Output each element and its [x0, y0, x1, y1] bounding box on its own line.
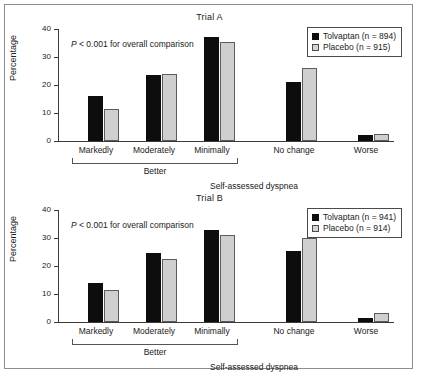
y-axis-line: [58, 210, 59, 322]
figure-frame: Trial A Tolvaptan (n = 894) Placebo (n =…: [4, 4, 413, 369]
x-tick-label-minimally: Minimally: [194, 145, 229, 155]
y-tick-label-10: 10: [29, 109, 51, 117]
bar-placebo-moderately: [162, 74, 177, 141]
bar-tolvaptan-worse: [358, 318, 373, 323]
better-bracket: [72, 158, 238, 164]
bar-tolvaptan-no-change: [286, 251, 301, 322]
bar-placebo-worse: [374, 313, 389, 322]
plot-area-trial-a: 0 10 20 30 40 Markedly Moderately Minima…: [58, 29, 394, 141]
x-axis-title-wrap: Self-assessed dyspnea: [58, 362, 394, 372]
bar-tolvaptan-moderately: [146, 75, 161, 141]
x-tick-label-markedly: Markedly: [79, 145, 113, 155]
chart-panel-trial-b: Trial B Tolvaptan (n = 941) Placebo (n =…: [5, 186, 414, 368]
y-tick-20: [54, 266, 58, 267]
panel-title: Trial B: [5, 193, 421, 203]
y-tick-10: [54, 113, 58, 114]
bar-tolvaptan-moderately: [146, 253, 161, 322]
plot-area-trial-b: 0 10 20 30 40 Markedly Moderately Minima…: [58, 210, 394, 322]
y-tick-30: [54, 238, 58, 239]
x-tick-label-moderately: Moderately: [133, 326, 175, 336]
bar-tolvaptan-minimally: [204, 37, 219, 141]
bar-placebo-minimally: [220, 42, 235, 141]
x-tick-label-worse: Worse: [354, 326, 378, 336]
better-bracket: [72, 339, 238, 345]
y-tick-label-40: 40: [29, 206, 51, 214]
x-tick-label-no-change: No change: [273, 326, 314, 336]
bar-tolvaptan-markedly: [88, 96, 103, 141]
x-tick-label-minimally: Minimally: [194, 326, 229, 336]
bar-placebo-worse: [374, 134, 389, 141]
panel-title: Trial A: [5, 12, 421, 22]
x-axis-line: [58, 322, 394, 323]
x-tick-label-moderately: Moderately: [133, 145, 175, 155]
x-tick-label-worse: Worse: [354, 145, 378, 155]
x-axis-title: Self-assessed dyspnea: [154, 362, 298, 372]
y-tick-label-0: 0: [29, 318, 51, 326]
y-tick-20: [54, 85, 58, 86]
bar-tolvaptan-worse: [358, 135, 373, 141]
bar-placebo-no-change: [302, 68, 317, 141]
y-tick-label-20: 20: [29, 81, 51, 89]
chart-panel-trial-a: Trial A Tolvaptan (n = 894) Placebo (n =…: [5, 5, 414, 187]
y-axis-title: Percentage: [8, 35, 18, 81]
bar-tolvaptan-no-change: [286, 82, 301, 141]
y-tick-40: [54, 210, 58, 211]
better-bracket-label: Better: [144, 166, 167, 176]
y-tick-label-30: 30: [29, 234, 51, 242]
better-bracket-label: Better: [144, 347, 167, 357]
bar-placebo-minimally: [220, 235, 235, 322]
bar-tolvaptan-markedly: [88, 283, 103, 322]
y-tick-40: [54, 29, 58, 30]
bar-placebo-markedly: [104, 290, 119, 322]
bar-placebo-moderately: [162, 259, 177, 322]
y-tick-0: [54, 141, 58, 142]
y-axis-title: Percentage: [8, 216, 18, 262]
y-axis-line: [58, 29, 59, 141]
y-tick-label-0: 0: [29, 137, 51, 145]
y-tick-label-30: 30: [29, 53, 51, 61]
bar-tolvaptan-minimally: [204, 230, 219, 322]
y-tick-label-10: 10: [29, 290, 51, 298]
y-tick-label-20: 20: [29, 262, 51, 270]
y-tick-label-40: 40: [29, 25, 51, 33]
bar-placebo-markedly: [104, 109, 119, 141]
y-tick-10: [54, 294, 58, 295]
bar-placebo-no-change: [302, 238, 317, 322]
x-tick-label-markedly: Markedly: [79, 326, 113, 336]
y-tick-30: [54, 57, 58, 58]
x-tick-label-no-change: No change: [273, 145, 314, 155]
x-axis-line: [58, 141, 394, 142]
y-tick-0: [54, 322, 58, 323]
